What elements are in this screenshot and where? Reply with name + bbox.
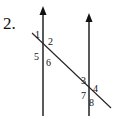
- angle-label-5: 5: [34, 51, 39, 62]
- angle-label-7: 7: [81, 90, 86, 101]
- angle-label-4: 4: [93, 83, 98, 94]
- angle-label-3: 3: [81, 75, 86, 86]
- angle-label-8: 8: [89, 97, 94, 108]
- problem-number: 2.: [3, 14, 16, 33]
- right-arrowhead-icon: [86, 13, 93, 22]
- angle-label-6: 6: [46, 57, 51, 68]
- left-arrowhead-icon: [40, 6, 47, 15]
- angle-label-1: 1: [35, 29, 40, 40]
- transversal-line: [32, 33, 111, 108]
- angle-label-2: 2: [48, 36, 53, 47]
- parallel-lines-transversal-diagram: 2. 1 2 5 6 3 4 7 8: [0, 0, 113, 124]
